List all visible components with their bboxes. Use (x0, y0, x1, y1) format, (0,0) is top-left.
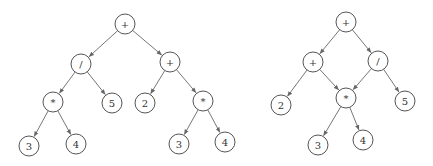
tree-node: + (336, 12, 356, 32)
tree-node: + (115, 14, 135, 34)
tree-node: 3 (308, 135, 328, 155)
edge-arrow (133, 30, 162, 54)
edge-arrow (89, 31, 117, 57)
tree-node: / (368, 51, 388, 71)
tree-node: / (71, 54, 91, 74)
edge-arrow (384, 69, 399, 92)
edge-arrow (184, 110, 198, 135)
node-label: + (166, 57, 174, 68)
edge-arrow (176, 70, 195, 93)
expression-tree-diagram: +/+*52*3434++/2*534 (0, 0, 433, 166)
node-label: * (344, 93, 349, 104)
tree-node: 2 (271, 95, 291, 115)
edge-arrow (352, 30, 371, 53)
node-label: * (201, 96, 206, 107)
edges-layer (34, 30, 399, 137)
edge-arrow (320, 30, 340, 54)
edge-arrow (60, 72, 76, 93)
tree-node: + (303, 52, 323, 72)
edge-arrow (58, 111, 71, 135)
tree-node: * (43, 92, 63, 112)
dag-edges (288, 30, 399, 136)
edge-arrow (353, 69, 371, 90)
tree-node: * (336, 88, 356, 108)
expression-tree-nodes: +/+*52*3434 (19, 14, 235, 156)
edge-arrow (208, 110, 220, 132)
node-label: 2 (142, 98, 148, 109)
tree-node: 5 (395, 91, 415, 111)
edge-arrow (324, 107, 341, 136)
node-label: 5 (402, 96, 408, 107)
node-label: 4 (222, 137, 228, 148)
node-label: 3 (176, 139, 182, 150)
node-label: + (121, 19, 129, 30)
node-label: 3 (26, 141, 32, 152)
node-label: 5 (109, 98, 115, 109)
tree-node: 3 (19, 136, 39, 156)
tree-node: 4 (353, 130, 373, 150)
node-label: + (342, 17, 350, 28)
node-label: * (51, 97, 56, 108)
node-label: + (309, 57, 317, 68)
expression-tree-edges (34, 30, 220, 136)
edge-arrow (350, 107, 359, 130)
node-label: 3 (315, 140, 321, 151)
diagram-canvas: +/+*52*3434++/2*534 (0, 0, 433, 166)
tree-node: 2 (135, 93, 155, 113)
edge-arrow (288, 70, 307, 96)
edge-arrow (87, 72, 105, 95)
tree-node: 4 (66, 134, 86, 154)
node-label: 4 (73, 139, 79, 150)
node-label: 4 (360, 135, 366, 146)
node-label: 2 (278, 100, 284, 111)
edge-arrow (151, 71, 165, 94)
tree-node: 4 (215, 132, 235, 152)
edge-arrow (34, 111, 48, 137)
edge-arrow (320, 69, 339, 90)
tree-node: 5 (102, 93, 122, 113)
tree-node: 3 (169, 134, 189, 154)
tree-node: + (160, 52, 180, 72)
tree-node: * (193, 91, 213, 111)
